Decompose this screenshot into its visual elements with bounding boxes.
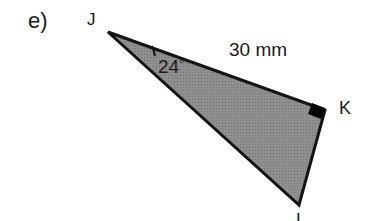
vertex-label-k: K [339,99,351,117]
vertex-label-j: J [87,11,96,28]
side-length-label-jk: 30 mm [229,40,287,59]
triangle-diagram-canvas [0,0,383,221]
triangle-jkl [108,32,325,205]
vertex-label-l: L [296,211,306,221]
geometry-figure: e) J K L 24° 30 mm [0,0,383,221]
degree-symbol: ° [179,57,184,71]
angle-measure-label-j: 24° [158,57,184,76]
angle-measure-value: 24 [158,56,179,77]
part-label: e) [28,10,48,32]
